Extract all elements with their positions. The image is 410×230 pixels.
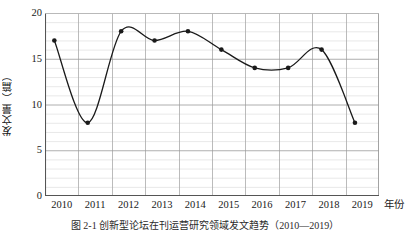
y-tick-label: 10 <box>16 100 42 111</box>
y-axis-tick-labels: 05101520 <box>16 0 42 230</box>
figure-caption: 图 2-1 创新型论坛在刊运营研究领域发文趋势（2010—2019） <box>0 220 410 230</box>
x-axis-tick-labels: 2010201120122013201420152016201720182019 <box>45 199 379 215</box>
y-axis-title: 发文量（篇） <box>0 38 16 168</box>
x-tick-label: 2017 <box>285 199 306 211</box>
series-markers-publications <box>52 29 357 125</box>
x-tick-label: 2013 <box>151 199 172 211</box>
x-tick-label: 2014 <box>185 199 206 211</box>
x-tick-label: 2012 <box>118 199 139 211</box>
plot-frame <box>45 13 379 196</box>
x-tick-label: 2011 <box>85 199 106 211</box>
vertical-gridlines <box>79 13 347 196</box>
chart-figure: 发文量（篇） 05101520 201020112012201320142015… <box>0 0 410 230</box>
plot-area <box>45 13 379 196</box>
line-chart-svg <box>45 13 379 196</box>
x-tick-label: 2018 <box>318 199 339 211</box>
x-axis-title: 年份 <box>384 199 404 211</box>
y-tick-label: 0 <box>16 191 42 202</box>
y-tick-label: 15 <box>16 54 42 65</box>
y-tick-label: 20 <box>16 8 42 19</box>
major-gridlines <box>45 14 379 151</box>
x-tick-label: 2016 <box>252 199 273 211</box>
y-tick-label: 5 <box>16 145 42 156</box>
x-tick-label: 2015 <box>218 199 239 211</box>
x-tick-label: 2019 <box>352 199 373 211</box>
x-tick-label: 2010 <box>51 199 72 211</box>
